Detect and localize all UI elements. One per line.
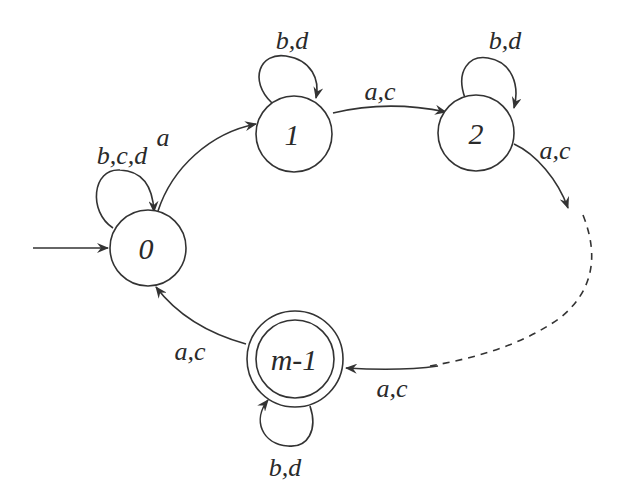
automaton-diagram: b,c,d a b,d a,c b,d a,c a,c b,d a,c 0 1 … bbox=[0, 0, 631, 502]
edge-m1-to-0 bbox=[156, 287, 246, 344]
loop-1-label: b,d bbox=[276, 26, 310, 55]
loop-2-label: b,d bbox=[489, 26, 523, 55]
intermediate-states-dashed-arc bbox=[430, 215, 592, 366]
loop-m1-label: b,d bbox=[269, 453, 303, 482]
edge-intermediate-to-m1-label: a,c bbox=[376, 374, 408, 403]
edge-2-to-intermediate-label: a,c bbox=[539, 136, 571, 165]
edge-1-to-2-label: a,c bbox=[364, 77, 396, 106]
state-1: 1 bbox=[256, 96, 332, 172]
edge-0-to-1-label: a bbox=[157, 123, 170, 152]
state-m-1-accepting: m-1 bbox=[247, 311, 343, 407]
state-2-label: 2 bbox=[469, 117, 484, 150]
loop-0-label: b,c,d bbox=[97, 141, 149, 170]
edge-1-to-2 bbox=[333, 106, 446, 113]
state-0-label: 0 bbox=[139, 232, 154, 265]
state-2: 2 bbox=[438, 95, 514, 171]
edge-intermediate-to-m1 bbox=[346, 366, 438, 369]
state-m-1-label: m-1 bbox=[271, 343, 318, 376]
edge-0-to-1 bbox=[158, 124, 256, 211]
state-0: 0 bbox=[110, 210, 186, 286]
edge-m1-to-0-label: a,c bbox=[174, 337, 206, 366]
state-1-label: 1 bbox=[285, 118, 300, 151]
